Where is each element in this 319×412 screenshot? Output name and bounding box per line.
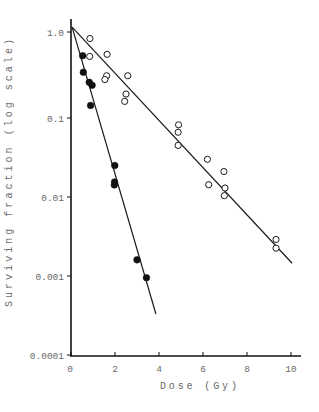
x-tick-label: 4 (156, 364, 162, 375)
data-point-open-circle (102, 76, 108, 82)
data-points (79, 35, 279, 281)
y-axis-title: Surviving fraction (log scale) (4, 39, 15, 307)
fit-lines (72, 27, 292, 314)
data-point-filled-circle (143, 274, 150, 281)
x-tick-label: 2 (112, 364, 118, 375)
data-point-open-circle (206, 182, 212, 188)
x-tick-label: 0 (67, 364, 73, 375)
x-tick-label: 8 (244, 364, 250, 375)
data-point-open-circle (175, 129, 181, 135)
data-point-open-circle (221, 193, 227, 199)
data-point-filled-circle (111, 162, 118, 169)
data-point-filled-circle (111, 182, 118, 189)
data-point-filled-circle (80, 69, 87, 76)
data-point-filled-circle (134, 257, 141, 264)
data-point-open-circle (221, 168, 227, 174)
data-point-open-circle (87, 53, 93, 59)
y-tick-label: 0.1 (47, 114, 64, 125)
data-point-open-circle (123, 91, 129, 97)
survival-curve-chart: 0.0001 0.001 0.01 0.1 1.0 0 2 4 6 8 10 D… (0, 0, 319, 412)
data-point-filled-circle (87, 102, 94, 109)
x-axis-title: Dose (Gy) (160, 381, 237, 392)
data-point-open-circle (104, 51, 110, 57)
data-point-open-circle (204, 156, 210, 162)
data-point-open-circle (175, 142, 181, 148)
x-tick-label: 10 (285, 364, 297, 375)
y-ticks: 0.0001 0.001 0.01 0.1 1.0 (30, 28, 71, 362)
data-point-filled-circle (89, 82, 96, 89)
data-point-open-circle (87, 35, 93, 41)
data-point-open-circle (175, 122, 181, 128)
y-tick-label: 0.001 (35, 272, 64, 283)
data-point-open-circle (125, 73, 131, 79)
data-point-filled-circle (79, 52, 86, 59)
data-point-open-circle (273, 245, 279, 251)
data-point-open-circle (273, 236, 279, 242)
y-tick-label: 0.0001 (30, 351, 65, 362)
data-point-open-circle (122, 98, 128, 104)
x-tick-label: 6 (200, 364, 206, 375)
data-point-open-circle (222, 185, 228, 191)
y-tick-label: 1.0 (47, 28, 64, 39)
fit-line-open (72, 27, 292, 263)
y-tick-label: 0.01 (41, 193, 64, 204)
